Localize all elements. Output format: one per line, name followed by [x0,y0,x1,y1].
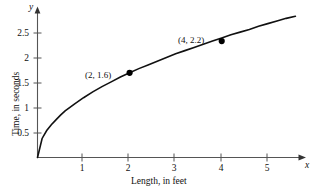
data-point-marker [219,38,225,44]
x-tick-label-3: 3 [164,164,184,174]
x-tick-label-1: 1 [72,164,92,174]
y-tick-label-2.5: 2.5 [5,29,29,39]
y-tick-label-2: 2 [5,54,29,64]
curve-line [38,16,296,157]
x-tick-label-4: 4 [211,164,231,174]
data-point-marker [127,70,133,76]
x-tick-label-2: 2 [118,164,138,174]
y-axis-variable-name: y [29,3,33,13]
data-point-label-2: (4, 2.2) [178,36,204,45]
x-axis-variable-name: x [305,161,309,171]
y-axis-caption: Time, in seconds [12,72,22,136]
x-tick-label-5: 5 [257,164,277,174]
chart-figure: 2.5 2 1.5 1 0.5 1 2 3 4 5 y x Time, in s… [0,0,317,195]
y-axis-arrow [35,7,41,14]
x-axis-caption: Length, in feet [131,177,187,187]
data-point-label-1: (2, 1.6) [85,71,111,80]
